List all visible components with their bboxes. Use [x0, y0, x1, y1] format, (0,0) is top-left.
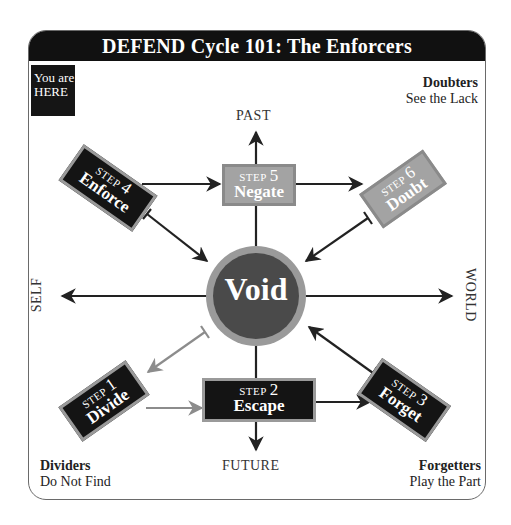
arrow-forget-to-void	[309, 327, 373, 373]
step-5-name: Negate	[225, 183, 293, 201]
forgetters-subtitle: Play the Part	[409, 474, 481, 490]
step-5-negate: STEP 5 Negate	[222, 164, 296, 206]
doubters-subtitle: See the Lack	[406, 91, 478, 107]
here-badge-line2: HERE	[34, 84, 68, 99]
axis-label-world: WORLD	[462, 268, 478, 322]
axis-label-future: FUTURE	[222, 458, 279, 474]
step-2-escape: STEP 2 Escape	[202, 378, 316, 422]
axis-label-self: SELF	[29, 278, 45, 313]
void-label: Void	[208, 271, 304, 307]
dividers-heading: Dividers	[40, 458, 111, 474]
you-are-here-badge: You are HERE	[31, 65, 75, 116]
axis-label-past: PAST	[236, 108, 271, 124]
doubters-heading: Doubters	[406, 75, 478, 91]
arrow-void-to-divide	[148, 332, 205, 372]
arrow-doubt-to-void	[306, 218, 368, 261]
corner-dividers: Dividers Do Not Find	[40, 458, 111, 490]
corner-forgetters: Forgetters Play the Part	[409, 458, 481, 490]
dividers-subtitle: Do Not Find	[40, 474, 111, 490]
here-badge-line1: You are	[34, 70, 74, 85]
forgetters-heading: Forgetters	[409, 458, 481, 474]
corner-doubters: Doubters See the Lack	[406, 75, 478, 107]
step-2-name: Escape	[205, 397, 313, 415]
arrow-enforce-to-void	[147, 214, 207, 261]
